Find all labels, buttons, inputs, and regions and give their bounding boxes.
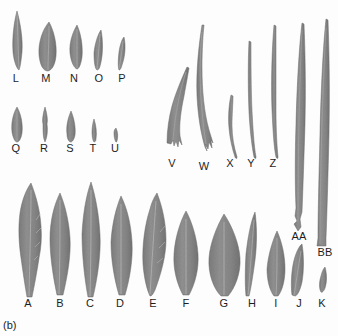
leaf-label-BB: BB bbox=[317, 246, 332, 258]
leaf-label-H: H bbox=[248, 297, 256, 309]
leaf-label-Q: Q bbox=[12, 142, 21, 154]
leaf-label-D: D bbox=[116, 297, 124, 309]
leaf-label-J: J bbox=[296, 297, 302, 309]
leaf-label-L: L bbox=[13, 72, 19, 84]
leaf-label-M: M bbox=[41, 72, 50, 84]
leaf-silhouette-plate: L M N O P Q R bbox=[0, 0, 338, 336]
leaf-label-C: C bbox=[86, 297, 94, 309]
leaf-label-A: A bbox=[24, 297, 32, 309]
leaf-label-S: S bbox=[66, 142, 74, 154]
plate-canvas: L M N O P Q R bbox=[0, 0, 338, 336]
leaf-label-N: N bbox=[70, 72, 78, 84]
leaf-label-U: U bbox=[111, 142, 119, 154]
panel-label: (b) bbox=[3, 319, 16, 331]
leaf-label-G: G bbox=[220, 297, 229, 309]
leaf-label-K: K bbox=[318, 297, 326, 309]
leaf-label-V: V bbox=[168, 157, 176, 169]
leaf-label-O: O bbox=[95, 72, 104, 84]
leaf-label-F: F bbox=[183, 297, 190, 309]
leaf-label-R: R bbox=[40, 142, 48, 154]
leaf-label-W: W bbox=[199, 160, 210, 172]
leaf-label-I: I bbox=[274, 297, 277, 309]
leaf-label-P: P bbox=[118, 72, 126, 84]
leaf-label-Y: Y bbox=[247, 157, 255, 169]
leaf-label-E: E bbox=[149, 297, 157, 309]
leaf-label-Z: Z bbox=[270, 157, 277, 169]
leaf-label-AA: AA bbox=[291, 230, 307, 242]
leaf-label-X: X bbox=[226, 157, 234, 169]
leaf-label-B: B bbox=[56, 297, 64, 309]
leaf-label-T: T bbox=[90, 142, 97, 154]
